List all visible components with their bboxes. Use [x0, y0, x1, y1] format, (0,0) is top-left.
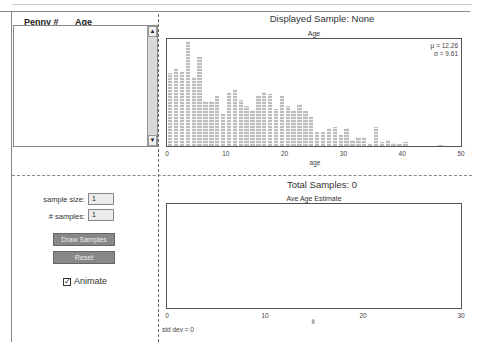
xbar-tick-label: 30 — [457, 312, 464, 319]
num-samples-input[interactable]: 1 — [88, 209, 114, 221]
histogram-bar — [250, 110, 254, 146]
histogram-bar — [221, 114, 225, 146]
histogram-bar — [303, 111, 307, 146]
scroll-up-button[interactable]: ▲ — [148, 26, 157, 37]
vertical-divider — [158, 14, 159, 342]
histogram-bar — [309, 116, 313, 146]
histogram-bar — [274, 109, 278, 146]
age-histogram: μ = 12.26 σ = 9.61 — [166, 38, 462, 147]
total-samples-header: Total Samples: 0 — [160, 179, 484, 190]
xbar-tick-label: 0 — [165, 312, 169, 319]
window-top-border — [0, 11, 470, 12]
histogram-bar — [391, 143, 395, 146]
sample-size-input[interactable]: 1 — [88, 193, 114, 205]
age-tick-label: 40 — [399, 150, 406, 157]
xbar-tick-label: 20 — [359, 312, 366, 319]
histogram-bar — [386, 140, 390, 146]
histogram-bar — [438, 145, 442, 146]
histogram-bar — [268, 94, 272, 147]
age-axis-label: age — [310, 159, 321, 166]
window-top-line — [12, 4, 472, 5]
histogram-bar — [397, 144, 401, 146]
histogram-bar — [291, 110, 295, 146]
histogram-bar — [174, 69, 178, 146]
histogram-bar — [380, 142, 384, 146]
histogram-bar — [256, 96, 260, 146]
scroll-down-button[interactable]: ▼ — [148, 135, 157, 146]
histogram-bar — [344, 128, 348, 146]
sample-size-label: sample size: — [5, 195, 85, 204]
histogram-bar — [186, 41, 190, 146]
histogram-bar — [286, 106, 290, 146]
histogram-bar — [180, 72, 184, 146]
histogram-bar — [350, 140, 354, 146]
mean-label: μ = 12.26 — [431, 42, 458, 49]
histogram-bar — [262, 92, 266, 146]
horizontal-divider — [12, 175, 472, 176]
histogram-bar — [339, 135, 343, 146]
histogram-bar — [333, 127, 337, 146]
histogram-bar — [215, 96, 219, 146]
histogram-bar — [374, 127, 378, 146]
std-dev-label: std dev = 0 — [162, 326, 194, 333]
age-tick-label: 10 — [222, 150, 229, 157]
histogram-bar — [362, 137, 366, 146]
age-tick-label: 30 — [340, 150, 347, 157]
animate-label: Animate — [74, 276, 107, 286]
left-border — [11, 11, 12, 342]
sigma-label: σ = 9.61 — [434, 50, 458, 57]
checkmark-icon: ✓ — [64, 277, 71, 286]
histogram-bar — [233, 89, 237, 146]
histogram-bar — [244, 106, 248, 146]
histogram-bar — [297, 104, 301, 146]
histogram-bar — [315, 132, 319, 146]
ave-age-chart-title: Ave Age Estimate — [166, 195, 462, 202]
penny-list[interactable]: ▲ ▼ — [13, 25, 158, 147]
histogram-bar — [403, 142, 407, 146]
histogram-bar — [227, 92, 231, 146]
histogram-bar — [209, 101, 213, 146]
histogram-bar — [327, 128, 331, 146]
list-scrollbar[interactable]: ▲ ▼ — [147, 26, 157, 146]
age-tick-label: 50 — [457, 150, 464, 157]
xbar-axis-label: x̄ — [311, 318, 314, 325]
histogram-bar — [203, 101, 207, 146]
histogram-bar — [197, 57, 201, 146]
histogram-bars — [167, 39, 461, 146]
histogram-bar — [280, 96, 284, 146]
histogram-bar — [168, 73, 172, 146]
age-chart-title: Age — [167, 30, 461, 37]
histogram-bar — [321, 132, 325, 146]
displayed-sample-header: Displayed Sample: None — [160, 13, 484, 24]
age-tick-label: 20 — [281, 150, 288, 157]
reset-button[interactable]: Reset — [53, 251, 115, 264]
sampling-distribution-plot — [166, 203, 462, 309]
histogram-bar — [239, 100, 243, 146]
age-tick-label: 0 — [165, 150, 169, 157]
num-samples-label: # samples: — [5, 212, 85, 221]
draw-samples-button[interactable]: Draw Samples — [53, 233, 115, 246]
xbar-tick-label: 10 — [261, 312, 268, 319]
histogram-bar — [368, 144, 372, 146]
histogram-bar — [356, 137, 360, 146]
animate-checkbox[interactable]: ✓ — [63, 278, 71, 286]
histogram-bar — [192, 77, 196, 146]
